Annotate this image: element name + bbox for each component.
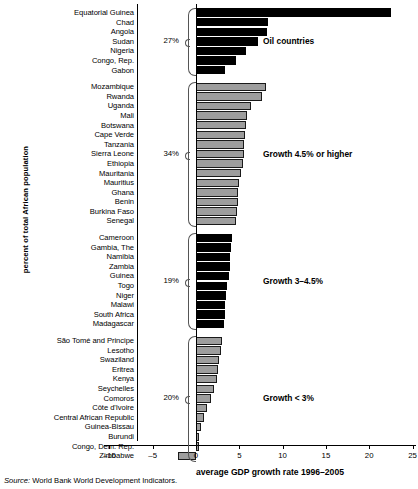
bar-series-container: [0, 0, 418, 445]
bar-growth45-12: [196, 198, 238, 206]
x-tick-0: [196, 445, 197, 449]
source-prefix: Source:: [4, 476, 30, 485]
bar-growthlt3-1: [196, 346, 221, 354]
bar-growth3to45-5: [196, 282, 227, 290]
group-annotation-growth45: Growth 4.5% or higher: [263, 149, 352, 159]
x-tick-15: [326, 445, 327, 449]
bar-growth3to45-3: [196, 262, 230, 270]
x-tick-5: [239, 445, 240, 449]
bar-growth45-4: [196, 121, 246, 129]
x-tick-label--5: –5: [138, 451, 168, 460]
x-tick-label-20: 20: [354, 451, 384, 460]
bar-growth45-7: [196, 150, 244, 158]
bar-growthlt3-8: [196, 413, 204, 421]
bar-oil-0: [196, 8, 391, 16]
group-percent-oil: 27%: [155, 36, 179, 45]
x-tick-10: [283, 445, 284, 449]
x-tick-label--10: –10: [94, 451, 124, 460]
bar-growth45-1: [196, 92, 262, 100]
bar-growth45-8: [196, 159, 243, 167]
group-annotation-oil: Oil countries: [263, 36, 314, 46]
bar-growth3to45-0: [196, 234, 232, 242]
bar-growth45-6: [196, 140, 244, 148]
bar-growthlt3-4: [196, 375, 217, 383]
bar-growthlt3-6: [196, 394, 211, 402]
bar-growth3to45-1: [196, 243, 231, 251]
bar-growth3to45-6: [196, 291, 226, 299]
group-brace-oil: [188, 8, 196, 76]
x-axis-title: average GDP growth rate 1996–2005: [140, 467, 400, 477]
bar-growth45-0: [196, 83, 266, 91]
x-tick-label-25: 25: [398, 451, 418, 460]
bar-oil-4: [196, 47, 246, 55]
x-tick--5: [153, 445, 154, 449]
group-brace-growth3to45: [188, 233, 196, 330]
source-text: World Bank World Development Indicators.: [32, 476, 177, 485]
x-tick-label-15: 15: [311, 451, 341, 460]
bar-growth45-2: [196, 102, 251, 110]
bar-growth45-14: [196, 217, 236, 225]
bar-growthlt3-2: [196, 356, 219, 364]
group-brace-growth45: [188, 82, 196, 227]
bar-growthlt3-7: [196, 404, 207, 412]
x-tick-label-5: 5: [224, 451, 254, 460]
bar-growthlt3-5: [196, 385, 214, 393]
bar-oil-5: [196, 56, 236, 64]
bar-oil-1: [196, 18, 268, 26]
x-tick-label-0: 0: [181, 451, 211, 460]
group-brace-growthlt3: [188, 336, 196, 462]
x-tick--10: [109, 445, 110, 449]
bar-oil-3: [196, 37, 258, 45]
bar-growthlt3-0: [196, 337, 222, 345]
bar-growth3to45-7: [196, 301, 225, 309]
group-annotation-growth3to45: Growth 3–4.5%: [263, 276, 323, 286]
source-note: Source: World Bank World Development Ind…: [4, 476, 177, 485]
bar-oil-6: [196, 66, 225, 74]
group-percent-growth3to45: 19%: [155, 276, 179, 285]
group-annotation-growthlt3: Growth < 3%: [263, 393, 314, 403]
x-tick-25: [413, 445, 414, 449]
chart-plot-area: Equatorial GuineaChadAngolaSudanNigeriaC…: [0, 0, 418, 489]
bar-growthlt3-3: [196, 365, 218, 373]
bar-growth3to45-4: [196, 272, 229, 280]
bar-growth3to45-8: [196, 310, 225, 318]
group-percent-growth45: 34%: [155, 149, 179, 158]
bar-growth3to45-9: [196, 320, 224, 328]
bar-growth45-13: [196, 207, 237, 215]
bar-oil-2: [196, 28, 267, 36]
bar-growth45-9: [196, 169, 241, 177]
bar-growth45-3: [196, 111, 247, 119]
bar-growth3to45-2: [196, 253, 230, 261]
x-tick-label-10: 10: [268, 451, 298, 460]
bar-growth45-10: [196, 179, 239, 187]
bar-growth45-11: [196, 188, 238, 196]
bar-growth45-5: [196, 131, 245, 139]
zero-axis-line: [196, 4, 197, 445]
x-tick-20: [369, 445, 370, 449]
group-percent-growthlt3: 20%: [155, 393, 179, 402]
